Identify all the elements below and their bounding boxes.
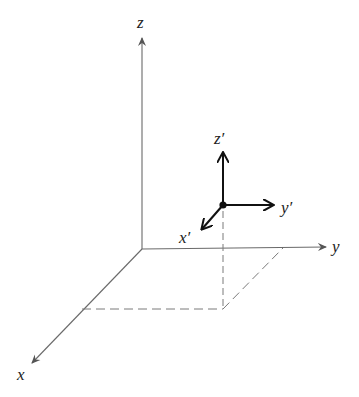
prime-origin-dot xyxy=(219,201,226,208)
x-prime-label: x′ xyxy=(178,228,191,247)
y-axis xyxy=(142,247,326,249)
coordinate-frames-diagram: z y x z′ y′ x′ xyxy=(0,0,359,397)
x-axis-label: x xyxy=(16,365,25,384)
y-prime-label: y′ xyxy=(279,198,293,217)
x-prime-axis xyxy=(202,205,223,229)
x-axis xyxy=(32,249,142,363)
projection-parallelogram xyxy=(82,211,283,309)
prime-frame: z′ y′ x′ xyxy=(178,129,293,247)
z-prime-label: z′ xyxy=(213,129,225,148)
projection-edge-right xyxy=(223,248,283,309)
y-axis-label: y xyxy=(330,237,340,256)
z-axis-label: z xyxy=(136,13,144,32)
